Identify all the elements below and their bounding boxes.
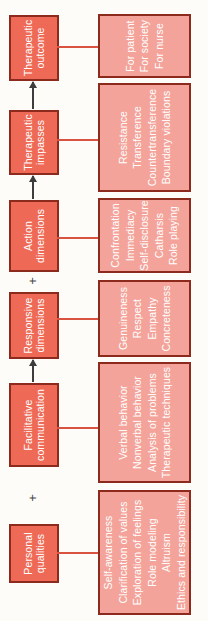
stage-box-therapeutic-impasses: Therapeutic impasses (9, 110, 59, 175)
detail-box-facilitative-communication: Verbal behavior Nonverbal behavior Analy… (98, 362, 191, 483)
flowchart: Personal qualities Facilitative communic… (0, 0, 208, 621)
stage-label: Action dimensions (22, 209, 47, 263)
stage-box-therapeutic-outcome: Therapeutic outcome (9, 15, 59, 81)
stage-box-personal-qualities: Personal qualities (9, 524, 59, 583)
stage-box-responsive-dimensions: Responsive dimensions (9, 292, 59, 359)
stage-label: Personal qualities (22, 532, 47, 574)
flow-arrow-icon (32, 360, 34, 382)
connector-line (57, 552, 99, 554)
connector-line (57, 139, 99, 141)
detail-list: Genuineness Respect Empathy Concreteness (116, 286, 174, 352)
figure-canvas: Personal qualities Facilitative communic… (0, 0, 208, 621)
stage-label: Therapeutic outcome (22, 20, 47, 77)
stage-box-facilitative-communication: Facilitative communication (9, 383, 59, 467)
flow-arrow-icon (32, 82, 34, 109)
connector-line (57, 318, 99, 320)
detail-box-personal-qualities: Self-awareness Clarification of values E… (98, 490, 191, 615)
detail-box-responsive-dimensions: Genuineness Respect Empathy Concreteness (98, 280, 191, 357)
detail-box-therapeutic-impasses: Resistance Transference Countertransfere… (98, 83, 191, 192)
stage-label: Therapeutic impasses (22, 114, 47, 171)
stage-label: Responsive dimensions (22, 298, 47, 354)
plus-operator: + (25, 273, 41, 289)
connector-line (57, 46, 99, 48)
stage-label: Facilitative communication (22, 389, 47, 461)
detail-list: Resistance Transference Countertransfere… (116, 89, 174, 187)
detail-list: Confrontation Immediacy Self-disclosure … (108, 200, 181, 270)
detail-list: Self-awareness Clarification of values E… (101, 495, 188, 610)
detail-box-therapeutic-outcome: For patient For society For nurse (98, 14, 191, 78)
stage-box-action-dimensions: Action dimensions (9, 200, 59, 272)
detail-box-action-dimensions: Confrontation Immediacy Self-disclosure … (98, 198, 191, 273)
detail-list: For patient For society For nurse (123, 20, 167, 72)
flow-arrow-icon (32, 176, 34, 199)
connector-line (57, 237, 99, 239)
detail-list: Verbal behavior Nonverbal behavior Analy… (116, 367, 174, 478)
connector-line (57, 427, 99, 429)
plus-operator: + (25, 490, 41, 506)
